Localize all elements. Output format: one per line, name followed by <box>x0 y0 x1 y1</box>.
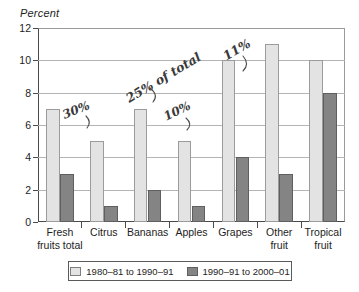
bar <box>222 60 236 222</box>
bar <box>104 206 118 222</box>
y-tick-0 <box>33 222 38 223</box>
y-axis-label-2: 2 <box>9 184 31 196</box>
bar-group <box>38 28 82 222</box>
bar-chart: Percent 12 10 8 6 4 2 0 Freshfruits tota… <box>0 0 359 292</box>
bar <box>309 60 323 222</box>
bar <box>46 109 60 222</box>
legend-item-series-0: 1980–81 to 1990–91 <box>70 266 173 277</box>
bar <box>192 206 206 222</box>
y-axis-label-4: 4 <box>9 151 31 163</box>
legend-label-series-0: 1980–81 to 1990–91 <box>86 266 173 277</box>
bar <box>60 174 74 223</box>
legend-item-series-1: 1990–91 to 2000–01 <box>187 266 290 277</box>
bar <box>90 141 104 222</box>
bar <box>279 174 293 223</box>
bar <box>148 190 162 222</box>
bar <box>134 109 148 222</box>
bar-group <box>301 28 345 222</box>
bar <box>178 141 192 222</box>
legend-swatch-icon-series-1 <box>187 267 198 276</box>
chart-legend: 1980–81 to 1990–91 1990–91 to 2000–01 <box>68 261 292 281</box>
bar <box>236 157 250 222</box>
bar <box>265 44 279 222</box>
bar-group <box>82 28 126 222</box>
bar-group <box>126 28 170 222</box>
y-axis-label-12: 12 <box>9 22 31 34</box>
x-axis-category-label: Tropicalfruit <box>293 226 353 251</box>
bar <box>323 93 337 222</box>
y-axis-label-8: 8 <box>9 87 31 99</box>
legend-swatch-icon-series-0 <box>70 267 81 276</box>
x-axis-category-labels: Freshfruits totalCitrusBananasApplesGrap… <box>0 226 359 262</box>
legend-label-series-1: 1990–91 to 2000–01 <box>203 266 290 277</box>
y-axis-label-10: 10 <box>9 54 31 66</box>
y-axis-label-6: 6 <box>9 119 31 131</box>
bar-group <box>257 28 301 222</box>
